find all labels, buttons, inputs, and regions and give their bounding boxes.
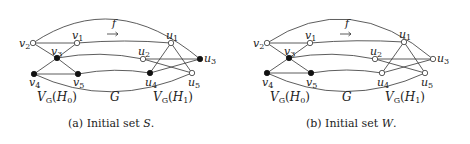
arrow-icon [340, 32, 351, 36]
map-label-f: f [111, 17, 118, 30]
label-u1: u1 [399, 28, 411, 42]
arrow-icon [107, 32, 118, 36]
edge-v3-u2 [57, 54, 143, 59]
node-u5 [189, 70, 194, 75]
label-u4: u4 [145, 76, 157, 90]
caption-b-set: W [382, 117, 393, 130]
label-u2: u2 [138, 45, 150, 59]
graph-label-G: G [110, 90, 120, 104]
label-v1: v1 [305, 29, 316, 43]
edge-v3-v5 [57, 58, 78, 74]
edge-v1-u1 [310, 41, 404, 43]
label-v3: v3 [284, 45, 295, 59]
edge-v4-u5 [267, 73, 425, 92]
node-v5 [308, 70, 313, 75]
edge-v5-u4 [78, 70, 150, 74]
label-v1: v1 [72, 29, 83, 43]
node-u4 [379, 70, 384, 75]
edge-v3-v4 [34, 58, 57, 74]
right-set-label: VG(H1) [153, 90, 193, 105]
caption-a-set: S [143, 117, 151, 130]
node-v2 [264, 40, 269, 45]
panel-a-graph: v2 v1 v3 v4 v5 u1 u2 u3 u4 u5 f VG(H0) G… [19, 17, 216, 105]
label-v3: v3 [51, 45, 62, 59]
label-v2: v2 [253, 37, 264, 51]
caption-a-text: (a) Initial set [68, 117, 143, 130]
edge-v3-u2 [289, 54, 375, 59]
right-set-label: VG(H1) [385, 90, 425, 105]
left-set-label: VG(H0) [270, 90, 310, 105]
edge-u1-u4 [382, 42, 404, 73]
label-v4: v4 [29, 76, 40, 90]
label-v5: v5 [306, 76, 317, 90]
left-set-label: VG(H0) [37, 90, 77, 105]
label-u5: u5 [188, 76, 200, 90]
graph-label-G: G [342, 90, 352, 104]
edge-v3-v4 [267, 58, 289, 73]
edge-v1-u1 [77, 41, 171, 43]
edge-v5-u4 [311, 70, 382, 73]
label-u3: u3 [437, 52, 449, 66]
edge-v4-u5 [34, 73, 192, 92]
label-u4: u4 [377, 76, 389, 90]
node-u5 [422, 70, 427, 75]
label-v4: v4 [262, 76, 273, 90]
caption-b-text: (b) Initial set [306, 117, 382, 130]
caption-a-period: . [151, 117, 155, 130]
node-v4 [264, 70, 269, 75]
label-v5: v5 [73, 76, 84, 90]
caption-a: (a) Initial set S. [68, 117, 154, 130]
panel-b-graph: v2 v1 v3 v4 v5 u1 u2 u3 u4 u5 f VG(H0) G… [253, 17, 449, 105]
node-v2 [30, 40, 35, 45]
edge-u1-u5 [171, 43, 192, 73]
caption-b: (b) Initial set W. [306, 117, 396, 130]
node-u4 [147, 70, 152, 75]
label-u3: u3 [204, 52, 216, 66]
label-u5: u5 [421, 76, 433, 90]
node-u3 [197, 56, 202, 61]
edge-v3-v5 [289, 58, 311, 73]
caption-b-period: . [393, 117, 397, 130]
label-v2: v2 [19, 37, 30, 51]
label-u2: u2 [370, 45, 382, 59]
node-u3 [430, 56, 435, 61]
label-u1: u1 [166, 29, 178, 43]
map-label-f: f [344, 17, 351, 30]
edge-u1-u4 [150, 43, 171, 73]
